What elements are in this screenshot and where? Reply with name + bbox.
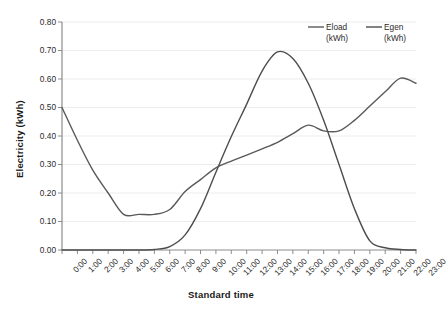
y-axis-title: Electricity (kWh) — [14, 100, 25, 178]
y-tick-label-3: 0.30 — [26, 159, 56, 169]
y-tick-label-6: 0.60 — [26, 74, 56, 84]
legend-unit-eload: (kWh) — [326, 33, 348, 43]
legend-label-egen: Egen — [384, 22, 403, 32]
y-tick-label-1: 0.10 — [26, 216, 56, 226]
y-tick-label-4: 0.40 — [26, 131, 56, 141]
legend-unit-egen: (kWh) — [384, 33, 406, 43]
y-tick-label-7: 0.70 — [26, 45, 56, 55]
y-tick-label-0: 0.00 — [26, 245, 56, 255]
y-tick-label-5: 0.50 — [26, 102, 56, 112]
x-axis-title: Standard time — [0, 289, 442, 300]
series-line-eload — [62, 78, 416, 216]
legend-label-eload: Eload — [326, 22, 347, 32]
y-tick-label-8: 0.80 — [26, 17, 56, 27]
y-tick-label-2: 0.20 — [26, 188, 56, 198]
series-line-egen — [62, 51, 416, 250]
